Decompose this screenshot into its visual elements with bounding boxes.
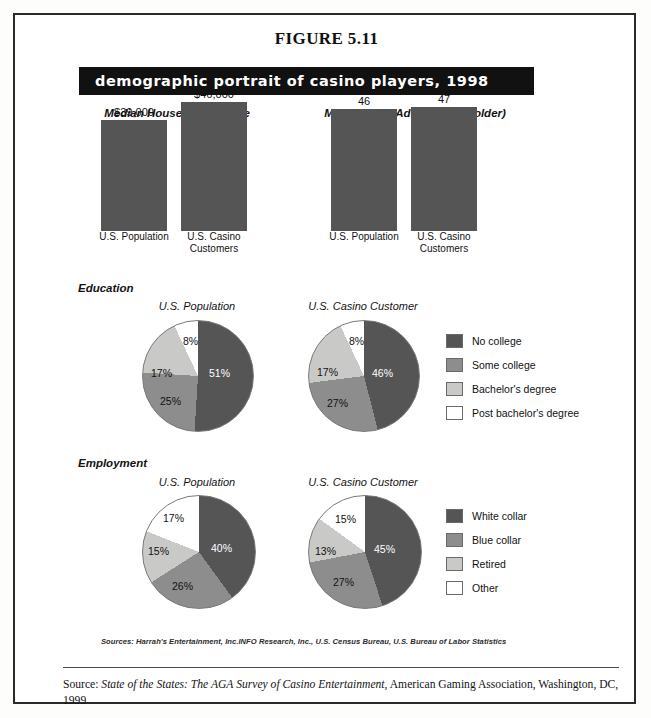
legend-item: Post bachelor's degree	[446, 402, 579, 423]
source-title: State of the States: The AGA Survey of C…	[101, 678, 384, 691]
bar-item: 47 U.S. Casino Customers	[411, 101, 477, 231]
bar-chart-income: Median Household Income $39,000 U.S. Pop…	[77, 107, 277, 279]
legend-item: White collar	[446, 505, 527, 526]
employment-pie-2-slice-label: 45%	[374, 543, 395, 555]
legend-swatch-white-collar	[446, 509, 463, 523]
education-legend: No college Some college Bachelor's degre…	[446, 330, 579, 426]
legend-label: Bachelor's degree	[472, 383, 556, 395]
bar-value-label: 46	[331, 95, 397, 107]
bar-category-label-line1: U.S. Casino	[406, 231, 482, 243]
education-pie-1-slice-label: 8%	[183, 335, 198, 347]
education-pie-2-title: U.S. Casino Customer	[278, 300, 448, 312]
employment-pie-2-slice-label: 27%	[333, 576, 354, 588]
education-pie-1-slice-label: 17%	[151, 367, 172, 379]
legend-label: Blue collar	[472, 534, 521, 546]
bar-category-label-line1: U.S. Population	[96, 231, 172, 243]
education-pie-1-slice-label: 51%	[209, 367, 230, 379]
legend-swatch-bachelors-degree	[446, 382, 463, 396]
figure-page: FIGURE 5.11 demographic portrait of casi…	[0, 0, 651, 718]
bar-value-label: $39,000	[101, 106, 167, 118]
legend-label: Post bachelor's degree	[472, 407, 579, 419]
education-pie-1-slice-label: 25%	[160, 395, 181, 407]
sources-line: Sources: Harrah's Entertainment, Inc.INF…	[101, 637, 506, 646]
employment-pie-1-slice-label: 17%	[163, 512, 184, 524]
bar-category-label: U.S. Population	[96, 231, 172, 243]
bar-category-label: U.S. Casino Customers	[176, 231, 252, 255]
education-pie-2-slice-label: 46%	[372, 367, 393, 379]
legend-swatch-some-college	[446, 358, 463, 372]
legend-swatch-blue-collar	[446, 533, 463, 547]
bar-rect	[101, 120, 167, 231]
legend-item: No college	[446, 330, 579, 351]
bar-rect	[331, 109, 397, 231]
legend-label: No college	[472, 335, 522, 347]
employment-pie-2-slice-label: 13%	[315, 545, 336, 557]
legend-swatch-no-college	[446, 334, 463, 348]
bar-rect	[181, 102, 247, 231]
education-pie-2-slice-label: 27%	[327, 397, 348, 409]
employment-pie-1-slice-label: 15%	[148, 545, 169, 557]
education-pie-2-slice-label: 17%	[317, 366, 338, 378]
legend-label: Other	[472, 582, 498, 594]
bar-category-label-line1: U.S. Casino	[176, 231, 252, 243]
bar-item: 46 U.S. Population	[331, 101, 397, 231]
legend-swatch-post-bachelors-degree	[446, 406, 463, 420]
legend-swatch-other	[446, 581, 463, 595]
education-pie-1-title: U.S. Population	[112, 300, 282, 312]
bar-value-label: $46,000	[181, 88, 247, 100]
legend-item: Bachelor's degree	[446, 378, 579, 399]
employment-pie-1-slice-label: 40%	[211, 542, 232, 554]
bar-category-label-line2: Customers	[176, 243, 252, 255]
employment-pie-1-slice-label: 26%	[172, 580, 193, 592]
bar-item: $39,000 U.S. Population	[101, 101, 167, 231]
bar-chart-age: Median Age (Adults 21 and older) 46 U.S.…	[305, 107, 525, 279]
legend-label: White collar	[472, 510, 527, 522]
employment-pie-2-slice-label: 15%	[335, 513, 356, 525]
bar-value-label: 47	[411, 93, 477, 105]
legend-item: Other	[446, 577, 527, 598]
bar-charts-zone: Median Household Income $39,000 U.S. Pop…	[15, 107, 638, 279]
education-section-title: Education	[78, 282, 134, 294]
source-block: Source: State of the States: The AGA Sur…	[63, 677, 619, 709]
employment-legend: White collar Blue collar Retired Other	[446, 505, 527, 601]
legend-label: Retired	[472, 558, 506, 570]
bar-rect	[411, 107, 477, 231]
figure-number: FIGURE 5.11	[15, 29, 638, 49]
education-pie-2-slice-label: 8%	[349, 335, 364, 347]
bar-category-label-line2: Customers	[406, 243, 482, 255]
legend-item: Retired	[446, 553, 527, 574]
bar-category-label: U.S. Casino Customers	[406, 231, 482, 255]
bar-item: $46,000 U.S. Casino Customers	[181, 101, 247, 231]
bar-category-label: U.S. Population	[326, 231, 402, 243]
legend-label: Some college	[472, 359, 536, 371]
employment-pie-1-title: U.S. Population	[112, 476, 282, 488]
source-prefix: Source:	[63, 678, 101, 691]
figure-frame: FIGURE 5.11 demographic portrait of casi…	[13, 13, 636, 704]
bar-chart-age-plot: 46 U.S. Population 47 U.S. Casino Custom…	[305, 125, 525, 255]
employment-section-title: Employment	[78, 457, 147, 469]
figure-banner-text: demographic portrait of casino players, …	[79, 73, 489, 89]
legend-item: Some college	[446, 354, 579, 375]
employment-pie-2-title: U.S. Casino Customer	[278, 476, 448, 488]
legend-item: Blue collar	[446, 529, 527, 550]
legend-swatch-retired	[446, 557, 463, 571]
bar-category-label-line1: U.S. Population	[326, 231, 402, 243]
bar-chart-income-plot: $39,000 U.S. Population $46,000 U.S. Cas…	[77, 125, 277, 255]
footer-divider	[63, 667, 619, 668]
figure-banner: demographic portrait of casino players, …	[79, 67, 534, 95]
